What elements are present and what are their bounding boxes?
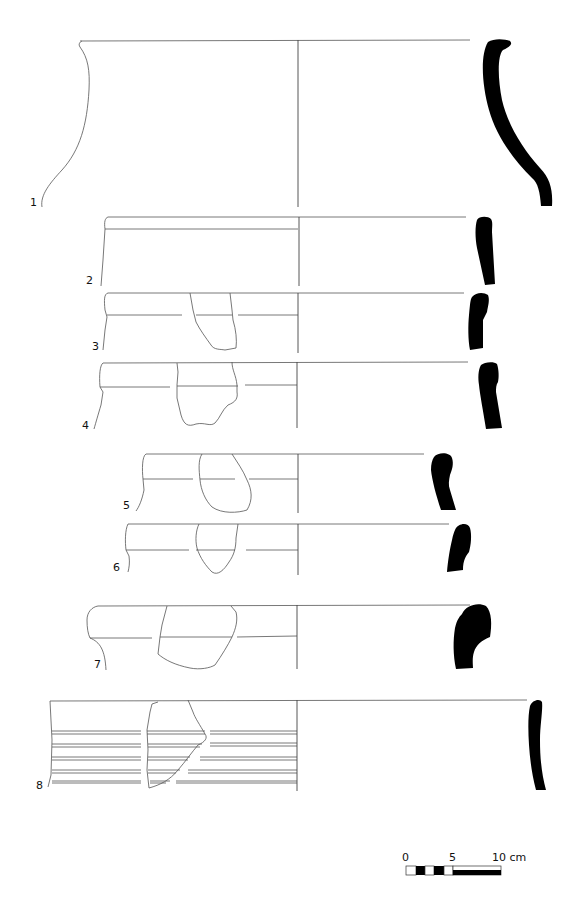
item-number-5: 5 <box>123 499 130 512</box>
vessel-1-section <box>483 39 552 206</box>
vessel-5-section <box>431 453 456 510</box>
vessel-6: 6 <box>113 524 471 575</box>
vessel-3-outline <box>103 293 108 350</box>
vessel-8-outline <box>48 701 52 787</box>
vessel-4: 4 <box>82 362 502 432</box>
scale-seg-1 <box>406 866 416 875</box>
vessel-1-outline <box>42 41 89 207</box>
vessel-8: 8 <box>36 700 546 792</box>
scale-seg-5 <box>444 866 453 875</box>
item-number-8: 8 <box>36 779 43 792</box>
vessel-3: 3 <box>92 293 489 353</box>
scale-label-10cm: 10 cm <box>492 851 526 864</box>
scale-label-5: 5 <box>449 851 456 864</box>
item-number-1: 1 <box>30 196 37 209</box>
item-number-4: 4 <box>82 419 89 432</box>
vessel-6-section <box>447 524 471 572</box>
vessel-7-rim-line <box>98 605 470 606</box>
vessel-4-rim-line <box>103 362 468 363</box>
scale-seg-2 <box>416 866 425 875</box>
vessel-8-rim-line <box>50 700 527 701</box>
item-number-3: 3 <box>92 340 99 353</box>
vessel-2-section <box>476 217 496 285</box>
vessel-4-sherd-outline <box>177 362 237 425</box>
vessel-7-sherd-outline <box>158 606 237 669</box>
scale-seg-4 <box>434 866 444 875</box>
vessel-6-sherd-outline <box>196 524 238 573</box>
pottery-drawing: 1 2 3 4 <box>0 0 578 910</box>
vessel-5-sherd-outline <box>199 454 251 512</box>
item-number-7: 7 <box>94 658 101 671</box>
scale-seg-6-fill <box>453 870 501 875</box>
vessel-3-section <box>468 293 489 350</box>
vessel-1-rim-line <box>80 40 470 41</box>
vessel-5: 5 <box>123 453 456 513</box>
vessel-4-section <box>478 362 502 429</box>
vessel-7: 7 <box>87 604 491 671</box>
vessel-3-sherd-outline <box>190 293 236 350</box>
scale-seg-3 <box>425 866 434 875</box>
vessel-5-outline <box>136 454 146 511</box>
vessel-2: 2 <box>86 217 495 287</box>
scale-bar: 0 5 10 cm <box>402 851 526 875</box>
item-number-6: 6 <box>113 561 120 574</box>
item-number-2: 2 <box>86 274 93 287</box>
vessel-7-groove-line-c <box>237 636 297 637</box>
vessel-1: 1 <box>30 39 552 209</box>
vessel-2-outline <box>101 217 108 286</box>
vessel-4-outline <box>94 363 103 429</box>
vessel-6-outline <box>125 524 129 572</box>
vessel-8-section <box>528 700 546 790</box>
scale-label-0: 0 <box>402 851 409 864</box>
vessel-7-section <box>454 604 492 669</box>
vessel-8-grooves <box>52 731 297 783</box>
